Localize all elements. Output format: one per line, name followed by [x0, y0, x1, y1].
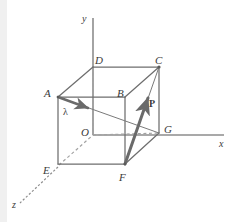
vertex-label-D: D — [95, 55, 103, 66]
vertex-label-O: O — [81, 127, 89, 138]
auxiliary-lines — [58, 67, 159, 164]
vertex-label-E: E — [43, 165, 50, 176]
axis-label-z: z — [12, 200, 16, 210]
vector-label-lambda: λ — [63, 107, 68, 117]
vector-arrows — [58, 97, 148, 164]
z-axis-line — [20, 167, 58, 203]
hidden-edges — [59, 67, 160, 165]
edge-A-D — [58, 67, 93, 97]
vertex-label-B: B — [117, 88, 124, 99]
cube-geometry-figure — [0, 0, 235, 222]
vertex-label-F: F — [119, 172, 126, 183]
vertex-dot-A — [57, 96, 60, 99]
vertex-label-A: A — [44, 88, 51, 99]
vertex-label-C: C — [155, 55, 162, 66]
dashed-edge-E-O — [59, 135, 93, 165]
vertex-label-G: G — [164, 124, 172, 135]
vertex-dot-F — [124, 163, 127, 166]
axis-label-y: y — [82, 14, 86, 24]
axis-label-x: x — [219, 139, 223, 149]
vector-label-p: P — [149, 99, 155, 109]
